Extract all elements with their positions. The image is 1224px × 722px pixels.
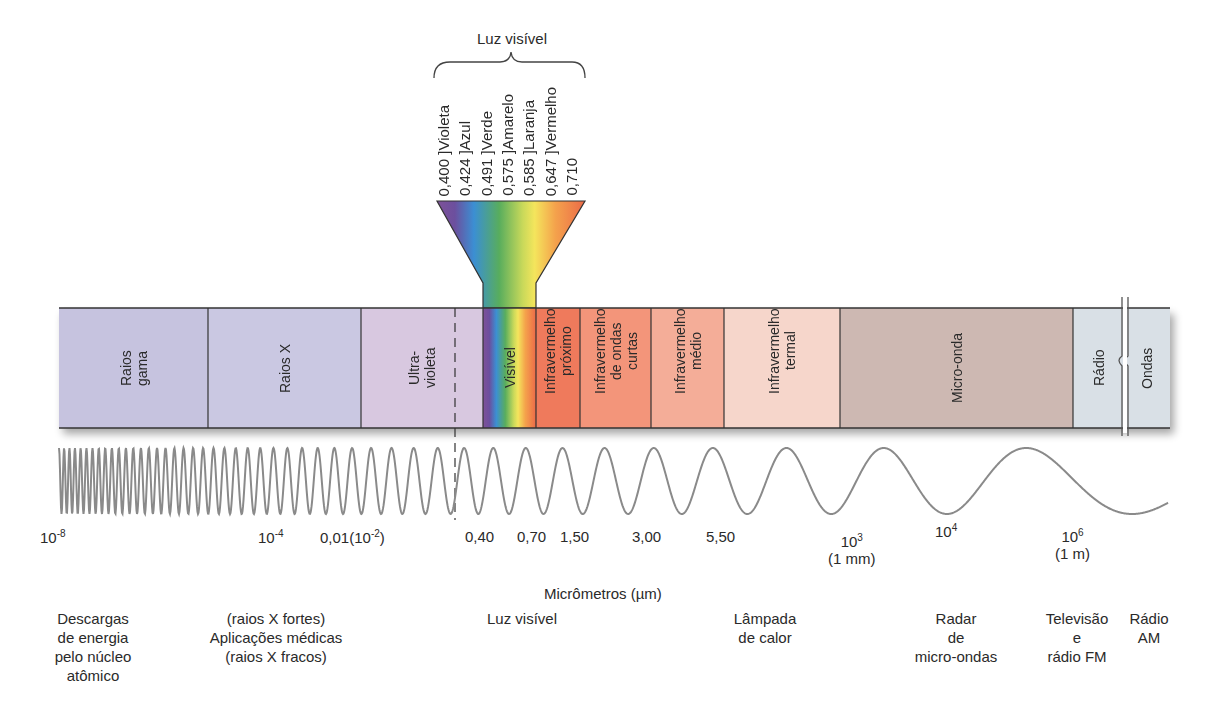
visible-light-funnel (437, 201, 585, 308)
scale-tick: 10-8 (40, 528, 66, 546)
application-label: Rádio AM (1059, 609, 1224, 647)
band-label-tir: Infravermelho termal (724, 308, 840, 428)
scale-tick: 5,50 (706, 528, 735, 545)
tick-value: 0,70 (517, 528, 546, 545)
visible-color-azul: 0,424 ]Azul (457, 121, 473, 196)
tick-value: 104 (935, 523, 957, 540)
tick-value: 10-8 (40, 529, 66, 546)
wavelength-value: 0,575 (499, 158, 516, 196)
tick-value: 106 (1061, 528, 1083, 545)
wavelength-value: 0,491 (478, 158, 495, 196)
tick-value: 1,50 (560, 528, 589, 545)
wavelength-value: 0,400 (435, 158, 452, 196)
tick-value: 0,01(10-2) (320, 529, 385, 546)
tick-subtitle: (1 mm) (828, 550, 876, 567)
scale-tick: 0,70 (517, 528, 546, 545)
color-name: ]Verde (478, 111, 495, 159)
scale-tick: 103(1 mm) (828, 532, 876, 567)
tick-value: 5,50 (706, 528, 735, 545)
application-label: Lâmpada de calor (675, 609, 855, 647)
scale-tick: 1,50 (560, 528, 589, 545)
scale-tick: 104 (935, 522, 957, 540)
tick-value: 0,40 (465, 528, 494, 545)
visible-light-title: Luz visível (460, 30, 564, 47)
color-name: ]Azul (456, 121, 473, 159)
visible-light-brace (434, 52, 585, 78)
scale-tick: 0,40 (465, 528, 494, 545)
scale-tick: 3,00 (632, 528, 661, 545)
band-label-visible: Visível (483, 308, 536, 428)
band-label-radio: Rádio (1073, 308, 1124, 428)
scale-tick: 10-4 (258, 528, 284, 546)
scale-tick: 0,01(10-2) (320, 528, 385, 546)
scale-tick: 106(1 m) (1055, 527, 1090, 562)
band-label-swir: Infravermelho de ondas curtas (580, 308, 651, 428)
wavelength-value: 0,647 (542, 158, 559, 196)
band-label-uv: Ultra- violeta (361, 308, 483, 428)
visible-color-limit: 0,710 (564, 158, 580, 196)
application-label: Descargas de energia pelo núcleo atômico (3, 609, 183, 685)
band-label-microwave: Micro-onda (840, 308, 1073, 428)
band-label-gamma: Raios gama (59, 308, 208, 428)
tick-subtitle: (1 m) (1055, 545, 1090, 562)
visible-color-amarelo: 0,575 ]Amarelo (500, 94, 516, 196)
wavelength-value: 0,710 (563, 158, 580, 196)
visible-color-vermelho: 0,647 ]Vermelho (543, 87, 559, 196)
electromagnetic-spectrum-diagram: Luz visível 0,400 ]Violeta0,424 ]Azul0,4… (0, 0, 1224, 722)
wavelength-value: 0,585 (520, 158, 537, 196)
color-name: ]Laranja (520, 100, 537, 158)
band-label-nir: Infravermelho próximo (536, 308, 580, 428)
scale-unit-label: Micrômetros (µm) (544, 585, 662, 602)
color-name: ]Amarelo (499, 94, 516, 158)
band-label-mir: Infravermelho médio (651, 308, 724, 428)
application-label: (raios X fortes) Aplicações médicas (rai… (186, 609, 366, 666)
visible-color-violeta: 0,400 ]Violeta (436, 105, 452, 196)
color-name: ]Violeta (435, 105, 452, 159)
tick-value: 3,00 (632, 528, 661, 545)
application-label: Luz visível (432, 609, 612, 628)
wave-line (59, 448, 1168, 514)
visible-color-verde: 0,491 ]Verde (479, 111, 495, 196)
visible-color-laranja: 0,585 ]Laranja (521, 100, 537, 196)
tick-value: 103 (841, 533, 863, 550)
tick-value: 10-4 (258, 529, 284, 546)
band-label-xray: Raios X (208, 308, 361, 428)
band-label-waves: Ondas (1124, 308, 1170, 428)
color-name: ]Vermelho (542, 87, 559, 159)
wavelength-value: 0,424 (456, 158, 473, 196)
